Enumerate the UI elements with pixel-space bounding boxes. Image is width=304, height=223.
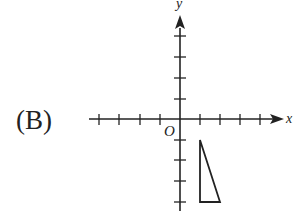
origin-label: O bbox=[164, 123, 175, 139]
coordinate-diagram: (B) x y O bbox=[0, 0, 304, 223]
x-axis-label: x bbox=[285, 111, 293, 126]
y-axis: y bbox=[174, 0, 186, 211]
option-label: (B) bbox=[16, 105, 52, 135]
y-axis-arrow-icon bbox=[175, 15, 185, 29]
x-axis: x bbox=[89, 111, 293, 126]
triangle-shape bbox=[200, 140, 220, 202]
y-axis-label: y bbox=[174, 0, 183, 11]
